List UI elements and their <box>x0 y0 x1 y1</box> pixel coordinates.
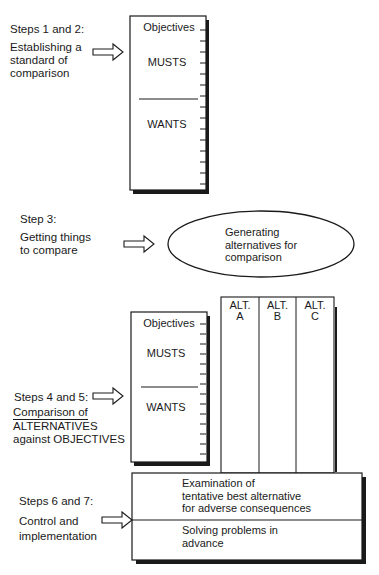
step-4-5-description: Comparison of ALTERNATIVES against OBJEC… <box>13 406 125 446</box>
step-1-2-title: Steps 1 and 2: <box>10 23 84 36</box>
alt-letter: A <box>221 311 259 322</box>
desc-line: Establishing a <box>10 41 82 54</box>
alt-letter: B <box>259 311 296 322</box>
wants-label: WANTS <box>131 118 203 131</box>
alt-letter: C <box>296 311 334 322</box>
box-line: advance <box>182 537 278 550</box>
desc-line: against OBJECTIVES <box>13 433 125 446</box>
arrow-icon <box>93 44 123 60</box>
musts-label: MUSTS <box>131 56 203 69</box>
step-6-7-title: Steps 6 and 7: <box>19 495 93 508</box>
ellipse-line: Generating <box>225 226 297 239</box>
alt-c-header: ALT. C <box>296 300 334 322</box>
examination-text: Examination of tentative best alternativ… <box>182 477 311 515</box>
step-4-5-title: Steps 4 and 5: <box>14 391 88 404</box>
arrow-icon <box>93 388 123 404</box>
desc-line: Comparison of <box>13 406 88 420</box>
wants-label: WANTS <box>131 401 201 414</box>
desc-line: comparison <box>10 67 82 80</box>
musts-label: MUSTS <box>131 347 201 360</box>
step-1-2-description: Establishing a standard of comparison <box>10 41 82 80</box>
alt-a-header: ALT. A <box>221 300 259 322</box>
solving-problems-text: Solving problems in advance <box>182 524 278 549</box>
objectives-header: Objectives <box>131 21 207 34</box>
arrow-icon <box>124 236 154 252</box>
desc-line: to compare <box>20 244 91 257</box>
alternatives-table <box>221 297 337 473</box>
alt-b-header: ALT. B <box>259 300 296 322</box>
step-3-description: Getting things to compare <box>20 231 91 257</box>
desc-line: Control and <box>19 514 97 529</box>
objectives-box-1 <box>130 16 209 194</box>
box-line: tentative best alternative <box>182 490 311 503</box>
desc-line: standard of <box>10 54 82 67</box>
step-6-7-description: Control and implementation <box>19 514 97 544</box>
ellipse-line: comparison <box>225 251 297 264</box>
arrow-icon <box>102 512 132 528</box>
box-line: Solving problems in <box>182 524 278 537</box>
ellipse-text: Generating alternatives for comparison <box>225 226 297 264</box>
ellipse-line: alternatives for <box>225 239 297 252</box>
desc-line: ALTERNATIVES <box>13 420 125 433</box>
step-3-title: Step 3: <box>20 213 56 226</box>
objectives-box-2 <box>131 312 210 466</box>
desc-line: Getting things <box>20 231 91 244</box>
objectives-header: Objectives <box>131 317 207 330</box>
box-line: for adverse consequences <box>182 502 311 515</box>
box-line: Examination of <box>182 477 311 490</box>
desc-line: implementation <box>19 529 97 544</box>
